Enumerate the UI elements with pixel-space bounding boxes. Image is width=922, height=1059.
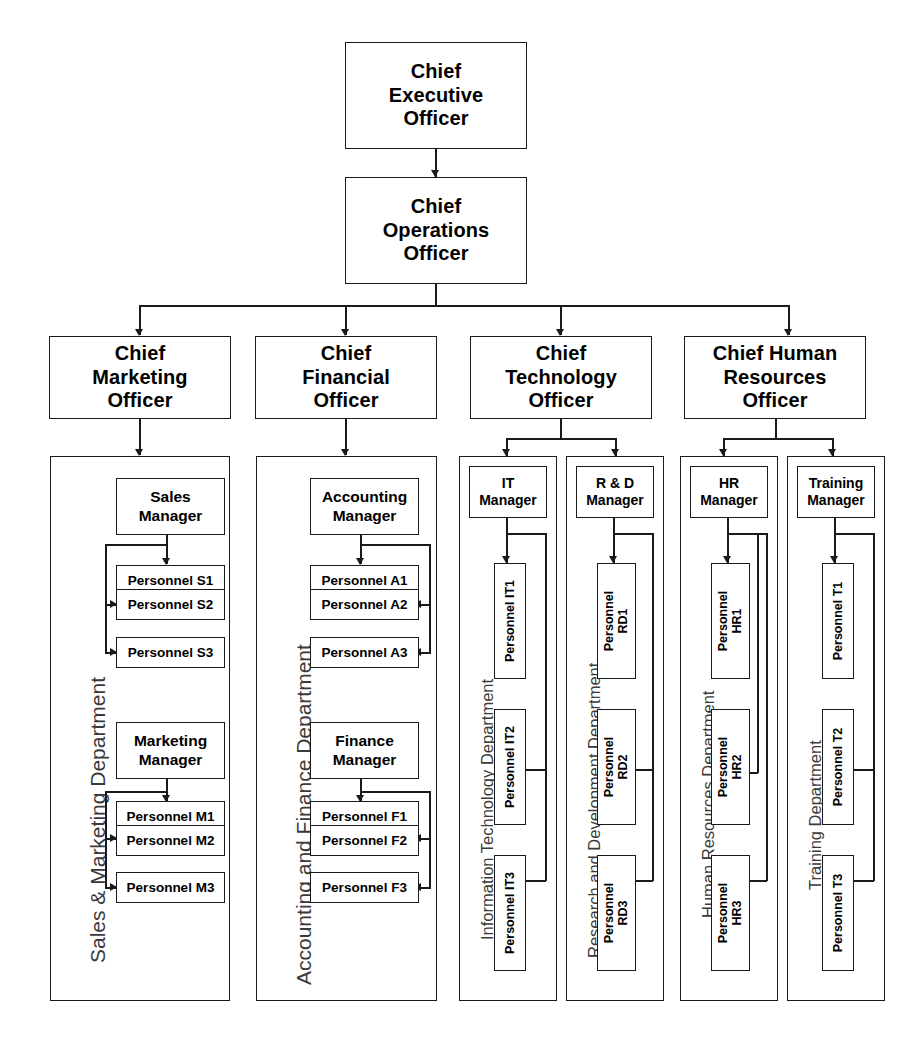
personnel-t2-label: Personnel T2 <box>831 728 845 807</box>
accounting-manager-line-2: Manager <box>322 507 407 525</box>
training-manager-line-1: Training <box>807 475 865 492</box>
node-it-manager[interactable]: IT Manager <box>469 466 547 518</box>
sales-manager-line-2: Manager <box>139 507 203 525</box>
arrow-bus-cmo <box>135 329 143 336</box>
personnel-t3-label: Personnel T3 <box>831 874 845 953</box>
personnel-m3-label: Personnel M3 <box>127 880 215 896</box>
node-personnel-m2[interactable]: Personnel M2 <box>116 825 225 856</box>
connector-cto-split <box>506 438 616 440</box>
connector-it-rail <box>545 533 547 881</box>
coo-line-3: Officer <box>383 242 490 266</box>
connector-sales-rail <box>105 544 107 654</box>
personnel-hr3-line-1: Personnel <box>717 883 731 943</box>
connector-training-rail-top <box>834 533 874 535</box>
node-personnel-t1[interactable]: Personnel T1 <box>822 563 854 679</box>
org-chart-canvas: Chief Executive Officer Chief Operations… <box>0 0 922 1059</box>
personnel-f1-label: Personnel F1 <box>322 809 407 825</box>
arrow-bus-cfo <box>341 329 349 336</box>
node-personnel-rd1[interactable]: Personnel RD1 <box>597 563 636 679</box>
node-hr-manager[interactable]: HR Manager <box>690 466 768 518</box>
personnel-hr3-label: Personnel HR3 <box>717 883 745 943</box>
ceo-line-3: Officer <box>389 107 483 131</box>
chro-line-2: Resources <box>713 366 837 390</box>
arrow-bus-cto <box>556 329 564 336</box>
arrow-rd-mgr-rd1 <box>609 556 617 563</box>
cfo-line-2: Financial <box>302 366 390 390</box>
arrow-cfo-dept <box>341 449 349 456</box>
node-personnel-a2[interactable]: Personnel A2 <box>310 589 419 620</box>
connector-finance-rail <box>429 791 431 889</box>
node-rd-manager[interactable]: R & D Manager <box>576 466 654 518</box>
node-personnel-it1[interactable]: Personnel IT1 <box>494 563 526 679</box>
cmo-line-3: Officer <box>92 389 187 413</box>
personnel-a2-label: Personnel A2 <box>322 597 408 613</box>
node-personnel-rd2[interactable]: Personnel RD2 <box>597 709 636 825</box>
node-personnel-it3[interactable]: Personnel IT3 <box>494 855 526 971</box>
node-personnel-s3[interactable]: Personnel S3 <box>116 637 225 668</box>
node-chief-technology-officer[interactable]: Chief Technology Officer <box>470 336 652 419</box>
connector-sales-rail-top <box>105 544 167 546</box>
connector-hr-rail-inner <box>757 533 759 773</box>
personnel-it2-label: Personnel IT2 <box>503 726 517 808</box>
connector-coo-stem <box>435 284 437 306</box>
connector-rd-rail <box>652 533 654 881</box>
personnel-t1-label: Personnel T1 <box>831 582 845 661</box>
node-personnel-f3[interactable]: Personnel F3 <box>310 872 419 903</box>
personnel-rd2-line-2: RD2 <box>617 755 631 780</box>
it-manager-line-1: IT <box>479 475 537 492</box>
node-personnel-t3[interactable]: Personnel T3 <box>822 855 854 971</box>
rd-manager-line-2: Manager <box>586 492 644 509</box>
arrow-bus-chro <box>784 329 792 336</box>
arrow-cto-rd <box>611 449 619 456</box>
marketing-manager-line-2: Manager <box>134 751 207 769</box>
node-personnel-s2[interactable]: Personnel S2 <box>116 589 225 620</box>
connector-it-rail-top <box>506 533 546 535</box>
node-personnel-it2[interactable]: Personnel IT2 <box>494 709 526 825</box>
personnel-rd3-line-1: Personnel <box>603 883 617 943</box>
node-training-manager[interactable]: Training Manager <box>797 466 875 518</box>
node-chief-executive-officer[interactable]: Chief Executive Officer <box>345 42 527 149</box>
personnel-f3-label: Personnel F3 <box>322 880 407 896</box>
node-sales-manager[interactable]: Sales Manager <box>116 478 225 535</box>
marketing-manager-line-1: Marketing <box>134 732 207 750</box>
connector-hr-rail-outer <box>766 533 768 881</box>
personnel-rd1-line-2: RD1 <box>617 609 631 634</box>
connector-hr-rail-top <box>727 533 767 535</box>
node-chief-marketing-officer[interactable]: Chief Marketing Officer <box>49 336 231 419</box>
sales-manager-line-1: Sales <box>139 488 203 506</box>
node-personnel-hr3[interactable]: Personnel HR3 <box>711 855 750 971</box>
connector-chro-split <box>723 438 833 440</box>
node-personnel-t2[interactable]: Personnel T2 <box>822 709 854 825</box>
node-marketing-manager[interactable]: Marketing Manager <box>116 722 225 779</box>
personnel-s1-label: Personnel S1 <box>128 573 214 589</box>
arrow-cmo-dept <box>135 449 143 456</box>
personnel-f2-label: Personnel F2 <box>322 833 407 849</box>
node-personnel-m3[interactable]: Personnel M3 <box>116 872 225 903</box>
personnel-it3-label: Personnel IT3 <box>503 872 517 954</box>
personnel-s2-label: Personnel S2 <box>128 597 214 613</box>
node-chief-operations-officer[interactable]: Chief Operations Officer <box>345 177 527 284</box>
node-personnel-rd3[interactable]: Personnel RD3 <box>597 855 636 971</box>
personnel-hr2-line-2: HR2 <box>731 755 745 780</box>
personnel-rd3-line-2: RD3 <box>617 901 631 926</box>
node-chief-financial-officer[interactable]: Chief Financial Officer <box>255 336 437 419</box>
node-personnel-hr2[interactable]: Personnel HR2 <box>711 709 750 825</box>
node-accounting-manager[interactable]: Accounting Manager <box>310 478 419 535</box>
node-personnel-a3[interactable]: Personnel A3 <box>310 637 419 668</box>
connector-accounting-rail <box>429 544 431 654</box>
node-finance-manager[interactable]: Finance Manager <box>310 722 419 779</box>
arrow-sales-mgr-s1 <box>162 558 170 565</box>
personnel-rd2-label: Personnel RD2 <box>603 737 631 797</box>
finance-manager-line-2: Manager <box>333 751 397 769</box>
arrow-hr-mgr-hr1 <box>723 556 731 563</box>
cto-line-2: Technology <box>505 366 617 390</box>
training-manager-line-2: Manager <box>807 492 865 509</box>
personnel-s3-label: Personnel S3 <box>128 645 214 661</box>
rd-manager-line-1: R & D <box>586 475 644 492</box>
personnel-hr2-label: Personnel HR2 <box>717 737 745 797</box>
node-chief-human-resources-officer[interactable]: Chief Human Resources Officer <box>684 336 866 419</box>
node-personnel-f2[interactable]: Personnel F2 <box>310 825 419 856</box>
connector-finance-rail-top <box>360 791 430 793</box>
coo-line-1: Chief <box>383 195 490 219</box>
node-personnel-hr1[interactable]: Personnel HR1 <box>711 563 750 679</box>
